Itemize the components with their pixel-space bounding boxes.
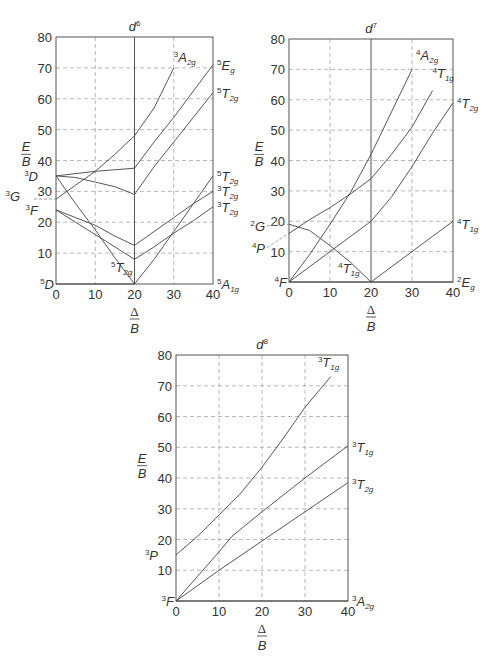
- left-term-label: 3D: [24, 169, 38, 184]
- svg-text:E: E: [255, 139, 264, 154]
- chart-d7: 0102030401020304050607080d7ΔBEB4F4P2G2Eg…: [250, 21, 478, 334]
- x-tick-label: 40: [446, 285, 460, 300]
- svg-text:B: B: [22, 154, 31, 169]
- right-term-label: 5T2g: [217, 169, 239, 186]
- y-tick-label: 80: [38, 30, 52, 45]
- chart-d8: 0102030401020304050607080d8ΔBEB3F3P3A2g3…: [137, 337, 375, 653]
- svg-text:B: B: [258, 638, 267, 653]
- right-term-label: 3T1g: [352, 440, 374, 457]
- right-term-label: 3A2g: [352, 594, 375, 611]
- x-axis-label: ΔB: [130, 304, 140, 336]
- y-tick-label: 10: [158, 563, 172, 578]
- right-term-label: 5Eg: [217, 58, 235, 75]
- inner-term-label: 3T1g: [318, 355, 340, 372]
- energy-level-curve: [176, 377, 331, 555]
- y-tick-label: 80: [271, 32, 285, 47]
- x-axis-label: ΔB: [257, 621, 267, 653]
- left-term-label: 2G: [250, 219, 265, 234]
- y-tick-label: 40: [38, 154, 52, 169]
- x-tick-label: 30: [405, 285, 419, 300]
- y-tick-label: 30: [38, 184, 52, 199]
- x-tick-label: 30: [298, 604, 312, 619]
- x-tick-label: 20: [127, 287, 141, 302]
- left-term-label: 5D: [40, 277, 54, 292]
- energy-level-curve: [176, 483, 348, 601]
- y-tick-label: 70: [271, 62, 285, 77]
- y-tick-label: 40: [158, 471, 172, 486]
- y-tick-label: 30: [158, 502, 172, 517]
- y-axis-label: EB: [21, 139, 31, 169]
- inner-term-label: 3A2g: [174, 50, 197, 67]
- y-tick-label: 60: [158, 410, 172, 425]
- energy-level-curve: [289, 91, 433, 234]
- y-tick-label: 40: [271, 154, 285, 169]
- x-tick-label: 30: [167, 287, 181, 302]
- y-tick-label: 10: [38, 246, 52, 261]
- svg-text:B: B: [138, 466, 147, 481]
- right-term-label: 5T2g: [217, 86, 239, 103]
- y-tick-label: 30: [271, 184, 285, 199]
- tanabe-sugano-figure: 0102030401020304050607080d6ΔBEB5D3F3G3D5…: [0, 0, 497, 658]
- x-tick-label: 10: [212, 604, 226, 619]
- left-term-label: 3G: [5, 189, 20, 204]
- svg-text:B: B: [130, 321, 139, 336]
- x-tick-label: 40: [206, 287, 220, 302]
- x-axis-label: ΔB: [366, 302, 376, 334]
- y-tick-label: 50: [38, 123, 52, 138]
- right-term-label: 4T1g: [457, 217, 479, 234]
- chart-title: d8: [256, 337, 268, 352]
- svg-text:B: B: [255, 154, 264, 169]
- left-term-label: 3F: [26, 203, 39, 218]
- x-tick-label: 20: [364, 285, 378, 300]
- right-term-label: 4T2g: [457, 96, 479, 113]
- y-tick-label: 20: [271, 214, 285, 229]
- y-tick-label: 80: [158, 348, 172, 363]
- left-term-label: 4F: [275, 275, 288, 290]
- right-term-label: 3T2g: [217, 184, 239, 201]
- energy-level-curve: [56, 68, 174, 199]
- y-tick-label: 20: [158, 533, 172, 548]
- inner-term-label: 4T1g: [338, 261, 360, 278]
- left-term-label: 3P: [145, 548, 158, 563]
- right-term-label: 3T2g: [352, 477, 374, 494]
- right-term-label: 5A1g: [217, 277, 240, 294]
- energy-level-curve: [289, 69, 412, 282]
- chart-title: d7: [365, 21, 377, 36]
- y-axis-label: EB: [137, 451, 147, 481]
- left-term-label: 3F: [162, 594, 175, 609]
- svg-text:Δ: Δ: [130, 304, 138, 319]
- x-tick-label: 40: [341, 604, 355, 619]
- svg-text:B: B: [367, 319, 376, 334]
- y-tick-label: 60: [38, 92, 52, 107]
- x-tick-label: 10: [88, 287, 102, 302]
- y-axis-label: EB: [254, 139, 264, 169]
- inner-term-label: 5T2g: [111, 260, 133, 277]
- chart-title: d6: [129, 19, 141, 34]
- y-tick-label: 60: [271, 93, 285, 108]
- svg-text:Δ: Δ: [367, 302, 375, 317]
- chart-d6: 0102030401020304050607080d6ΔBEB5D3F3G3D5…: [5, 19, 239, 336]
- y-tick-label: 70: [158, 379, 172, 394]
- y-tick-label: 50: [271, 123, 285, 138]
- svg-text:E: E: [22, 139, 31, 154]
- right-term-label: 3T2g: [217, 200, 239, 217]
- y-tick-label: 20: [38, 215, 52, 230]
- svg-text:E: E: [138, 451, 147, 466]
- inner-term-label: 4A2g: [416, 48, 439, 65]
- left-term-label: 4P: [252, 241, 265, 256]
- svg-text:Δ: Δ: [258, 621, 266, 636]
- y-tick-label: 70: [38, 61, 52, 76]
- x-tick-label: 10: [323, 285, 337, 300]
- x-tick-label: 20: [255, 604, 269, 619]
- y-tick-label: 10: [271, 245, 285, 260]
- y-tick-label: 50: [158, 440, 172, 455]
